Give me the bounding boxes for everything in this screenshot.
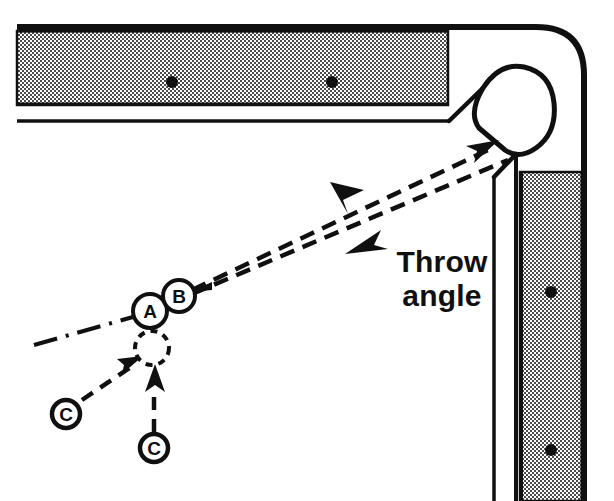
- cue-label-left-text: C: [59, 404, 73, 425]
- cue-label-bottom: C: [140, 434, 168, 462]
- diamond-right-1: [545, 286, 557, 298]
- diamond-top-2: [326, 76, 338, 88]
- pool-diagram-container: Throw angle A B C C: [0, 0, 614, 501]
- top-rail-fill: [17, 31, 448, 105]
- diamond-right-2: [545, 444, 557, 456]
- corner-pocket: [474, 66, 554, 154]
- tangent-aim-dash-dot-line: [34, 315, 140, 345]
- angle-callout-arrow-lower: [345, 230, 388, 254]
- top-rail: [17, 30, 448, 105]
- throw-line-upper-arrowhead: [466, 140, 499, 163]
- ball-b-label: B: [172, 286, 186, 307]
- angle-callout-arrow-upper: [330, 182, 364, 214]
- ghost-ball: [135, 331, 169, 365]
- cue-path-vertical-arrowhead: [145, 364, 165, 392]
- cue-label-left: C: [52, 400, 80, 428]
- diamond-top-1: [166, 76, 178, 88]
- throw-angle-label-line1: Throw: [397, 245, 488, 278]
- cue-label-bottom-text: C: [147, 438, 161, 459]
- ball-b: B: [163, 280, 195, 312]
- pool-table-diagram: Throw angle A B C C: [0, 0, 614, 501]
- throw-angle-label-line2: angle: [402, 279, 481, 312]
- ball-a-label: A: [143, 301, 157, 322]
- corner-pocket-shape: [474, 66, 554, 154]
